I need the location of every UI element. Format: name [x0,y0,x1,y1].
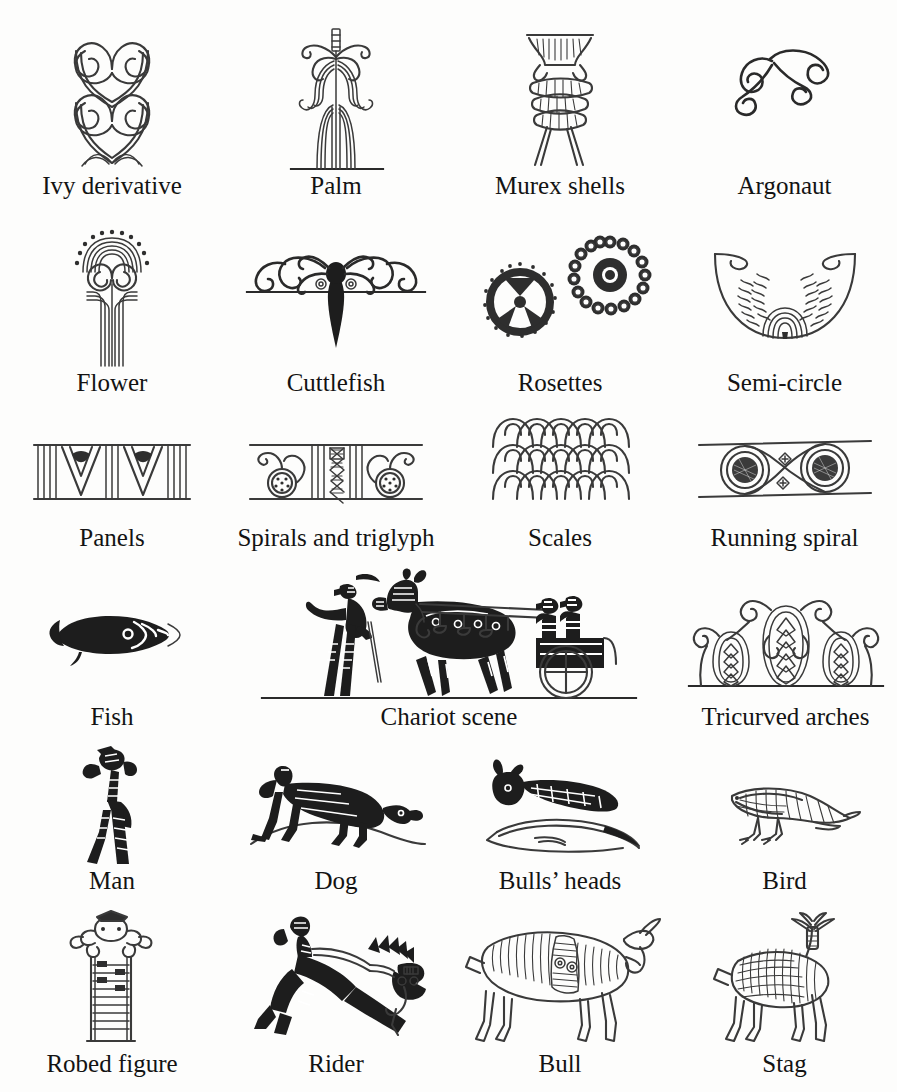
motif-label: Murex shells [495,173,625,198]
tricurved-arches-icon [683,588,889,704]
motif-label: Bulls’ heads [499,868,621,893]
motif-cell-chariot-scene[interactable]: Chariot scene [224,553,674,729]
motif-label: Bird [762,868,806,893]
figure-sheet: Mycenaean pottery motifs [0,0,897,1092]
motif-cell-fish[interactable]: Fish [0,553,224,729]
running-spiral-icon [695,437,875,525]
motif-cell-scales[interactable]: Scales [448,400,672,550]
motif-label: Robed figure [46,1051,177,1076]
motif-label: Bull [538,1051,581,1076]
bulls-heads-icon [475,756,645,868]
motif-label: Stag [762,1051,806,1076]
semi-circle-icon [705,240,865,370]
motif-cell-bird[interactable]: Bird [672,733,897,893]
motif-cell-flower[interactable]: Flower [0,205,224,395]
motif-label: Scales [528,525,592,550]
motif-label: Running spiral [711,525,859,550]
dog-icon [241,760,431,868]
scales-icon [485,415,635,525]
motif-label: Fish [90,704,133,729]
robed-figure-icon [57,909,167,1051]
bull-icon [460,913,660,1051]
motif-label: Flower [77,370,148,395]
chariot-scene-icon [260,564,638,704]
motif-row-2: Flower [0,205,897,395]
argonaut-icon [720,41,850,173]
spirals-triglyph-icon [246,439,426,525]
motif-cell-semi-circle[interactable]: Semi-circle [672,205,897,395]
motif-cell-panels[interactable]: Panels [0,400,224,550]
motif-label: Cuttlefish [287,370,386,395]
motif-label: Spirals and triglyph [237,525,434,550]
motif-label: Dog [314,868,357,893]
motif-label: Panels [79,525,144,550]
motif-cell-stag[interactable]: Stag [672,896,897,1076]
flower-icon [53,220,171,370]
motif-label: Tricurved arches [702,704,870,729]
motif-label: Argonaut [738,173,832,198]
motif-cell-rosettes[interactable]: Rosettes [448,205,672,395]
bird-icon [710,778,860,868]
motif-cell-murex-shells[interactable]: Murex shells [448,8,672,198]
motif-label: Palm [310,173,361,198]
motif-label: Chariot scene [381,704,518,729]
rosettes-icon [460,224,660,370]
ivy-derivative-icon [52,21,172,173]
palm-icon [271,21,401,173]
rosette-beaded [568,236,652,316]
motif-label: Ivy derivative [42,173,182,198]
panels-icon [28,439,196,525]
motif-cell-cuttlefish[interactable]: Cuttlefish [224,205,448,395]
motif-cell-palm[interactable]: Palm [224,8,448,198]
motif-cell-tricurved-arches[interactable]: Tricurved arches [674,553,897,729]
rosette-wheel [490,272,550,332]
motif-cell-robed-figure[interactable]: Robed figure [0,896,224,1076]
man-icon [67,740,157,868]
motif-row-5: Man [0,733,897,893]
motif-cell-ivy-derivative[interactable]: Ivy derivative [0,8,224,198]
motif-cell-running-spiral[interactable]: Running spiral [672,400,897,550]
motif-cell-bull[interactable]: Bull [448,896,672,1076]
motif-cell-dog[interactable]: Dog [224,733,448,893]
motif-cell-argonaut[interactable]: Argonaut [672,8,897,198]
motif-label: Semi-circle [727,370,842,395]
cuttlefish-icon [241,234,431,370]
motif-cell-spirals-triglyph[interactable]: Spirals and triglyph [224,400,448,550]
motif-row-1: Ivy derivative [0,8,897,198]
rider-icon [246,909,426,1051]
motif-label: Rider [308,1051,364,1076]
motif-cell-rider[interactable]: Rider [224,896,448,1076]
stag-icon [710,913,860,1051]
motif-cell-bulls-heads[interactable]: Bulls’ heads [448,733,672,893]
motif-row-4: Fish [0,553,897,729]
motif-label: Man [89,868,135,893]
fish-icon [42,600,182,704]
murex-shells-icon [505,13,615,173]
motif-row-6: Robed figure [0,896,897,1076]
motif-row-3: Panels [0,400,897,550]
motif-cell-man[interactable]: Man [0,733,224,893]
motif-label: Rosettes [518,370,603,395]
